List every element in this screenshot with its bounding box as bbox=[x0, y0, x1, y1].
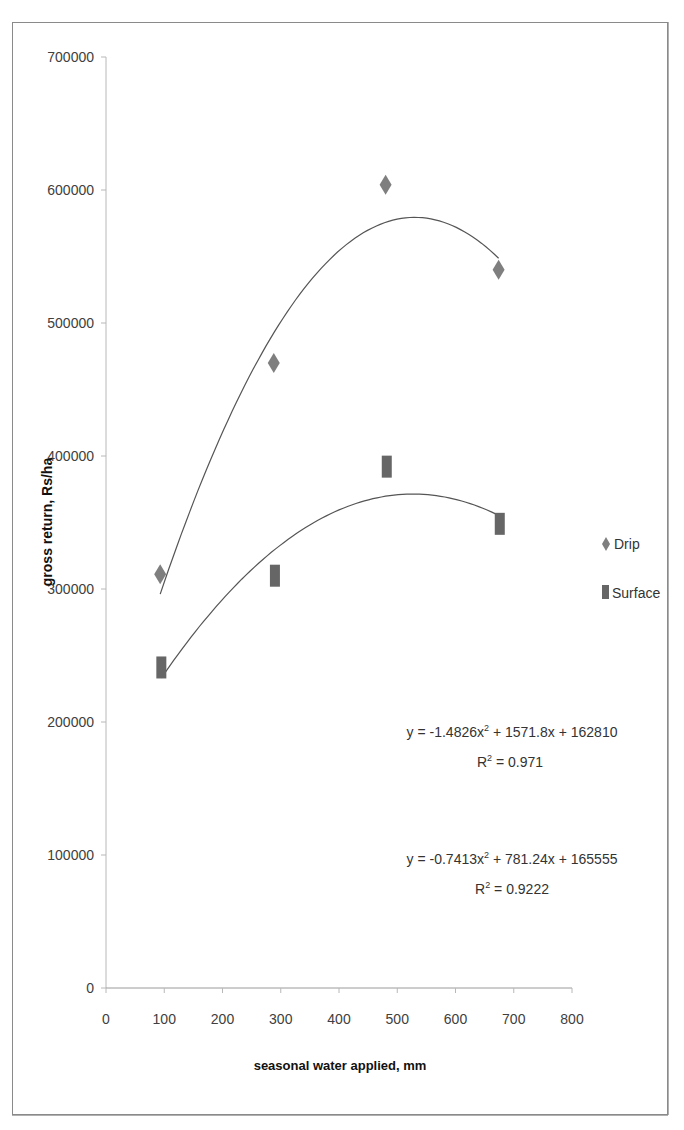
x-tick-label: 400 bbox=[327, 1011, 351, 1027]
square-marker-icon bbox=[382, 456, 392, 478]
surface-r-squared: R2 = 0.9222 bbox=[475, 880, 549, 897]
y-tick-label: 0 bbox=[86, 980, 94, 996]
legend-item-surface: Surface bbox=[602, 585, 660, 601]
square-marker-icon bbox=[156, 656, 166, 678]
legend: Drip Surface bbox=[602, 536, 660, 601]
data-points bbox=[154, 175, 505, 679]
x-tick-label: 700 bbox=[502, 1011, 526, 1027]
y-tick-label: 600000 bbox=[47, 182, 94, 198]
x-tick-label: 500 bbox=[386, 1011, 410, 1027]
drip-equation: y = -1.4826x2 + 1571.8x + 162810 bbox=[407, 723, 618, 740]
x-tick-label: 800 bbox=[560, 1011, 584, 1027]
legend-label-drip: Drip bbox=[614, 536, 640, 552]
y-axis: 0100000200000300000400000500000600000700… bbox=[47, 49, 106, 996]
y-tick-label: 500000 bbox=[47, 315, 94, 331]
diamond-marker-icon bbox=[602, 537, 610, 551]
x-tick-label: 600 bbox=[444, 1011, 468, 1027]
diamond-marker-icon bbox=[268, 353, 280, 373]
diamond-marker-icon bbox=[493, 260, 505, 280]
trendlines bbox=[160, 217, 500, 678]
diamond-marker-icon bbox=[380, 175, 392, 195]
surface-equation: y = -0.7413x2 + 781.24x + 165555 bbox=[407, 850, 618, 867]
y-tick-label: 200000 bbox=[47, 714, 94, 730]
scatter-chart: 0100000200000300000400000500000600000700… bbox=[0, 0, 684, 1130]
surface-trendline-annotation: y = -0.7413x2 + 781.24x + 165555 R2 = 0.… bbox=[407, 850, 618, 897]
y-axis-title: gross return, Rs/ha bbox=[39, 458, 55, 587]
drip-trendline-annotation: y = -1.4826x2 + 1571.8x + 162810 R2 = 0.… bbox=[407, 723, 618, 770]
trendline-surface bbox=[161, 494, 500, 678]
drip-r-squared: R2 = 0.971 bbox=[477, 753, 543, 770]
x-tick-label: 300 bbox=[269, 1011, 293, 1027]
y-tick-label: 100000 bbox=[47, 847, 94, 863]
x-tick-label: 200 bbox=[211, 1011, 235, 1027]
square-marker-icon bbox=[602, 585, 609, 599]
legend-item-drip: Drip bbox=[602, 536, 640, 552]
y-tick-label: 700000 bbox=[47, 49, 94, 65]
legend-label-surface: Surface bbox=[612, 585, 660, 601]
trendline-drip bbox=[160, 217, 498, 594]
x-axis-title: seasonal water applied, mm bbox=[254, 1058, 427, 1073]
square-marker-icon bbox=[495, 513, 505, 535]
x-tick-label: 100 bbox=[153, 1011, 177, 1027]
square-marker-icon bbox=[270, 565, 280, 587]
x-tick-label: 0 bbox=[102, 1011, 110, 1027]
x-axis: 0100200300400500600700800 bbox=[102, 988, 584, 1027]
